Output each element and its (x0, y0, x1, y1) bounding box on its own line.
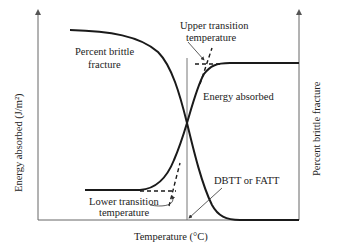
dbtt-label: DBTT or FATT (214, 175, 280, 186)
x-axis-label: Temperature (°C) (134, 231, 208, 243)
dbtt-leader (189, 188, 222, 218)
right-y-axis-label: Percent brittle fracture (311, 81, 322, 176)
lower-transition-label-line1: Lower transition (89, 196, 159, 207)
upper-transition-label-line2: temperature (186, 32, 236, 43)
brittle-label-line1: Percent brittle (75, 46, 135, 57)
diagram-canvas: Percent brittle fracture Upper transitio… (0, 0, 338, 251)
upper-transition-label-line1: Upper transition (180, 20, 249, 31)
energy-absorbed-curve (85, 63, 299, 190)
lower-transition-label-line2: temperature (99, 207, 149, 218)
ductile-brittle-transition-diagram: Percent brittle fracture Upper transitio… (0, 0, 338, 251)
left-y-axis-label: Energy absorbed (J/m²) (13, 93, 25, 192)
energy-absorbed-label: Energy absorbed (203, 91, 274, 102)
lower-tangent-slope (169, 163, 180, 206)
upper-transition-leader (188, 42, 204, 60)
brittle-label-line2: fracture (88, 59, 121, 70)
